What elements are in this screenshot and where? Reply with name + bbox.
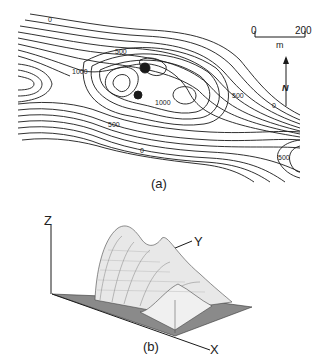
contour-label: 500 xyxy=(108,121,120,128)
axis-x-label: X xyxy=(210,342,219,357)
axis-z-label: Z xyxy=(44,213,52,228)
scale-unit: m xyxy=(276,40,284,50)
contour-label: 500 xyxy=(115,48,127,55)
north-arrow-icon xyxy=(283,56,289,106)
scale-start: 0 xyxy=(251,25,257,36)
north-label: N xyxy=(282,83,289,93)
caption-b: (b) xyxy=(143,339,159,354)
contour-label: 1000 xyxy=(155,99,171,106)
scale-end: 200 xyxy=(295,25,312,36)
surface-plot xyxy=(51,225,252,350)
contour-label: 0 xyxy=(140,147,144,154)
contour-label: 1000 xyxy=(72,68,88,75)
contour-label: 0 xyxy=(272,102,276,109)
contour-label: 0 xyxy=(48,16,52,23)
axis-y-label: Y xyxy=(194,234,203,249)
contour-label: 500 xyxy=(278,154,290,161)
caption-a: (a) xyxy=(151,176,167,191)
contour-label: 500 xyxy=(232,92,244,99)
